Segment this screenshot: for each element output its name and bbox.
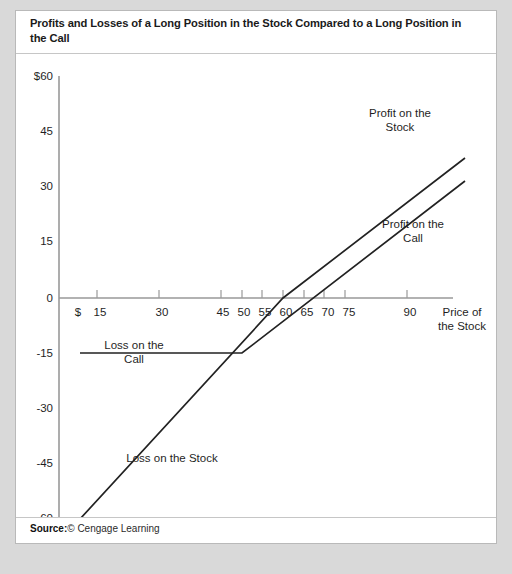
source-label: Source: [30,523,67,534]
x-tick-label-75: 75 [343,306,356,318]
chart-plot-area: $60 45 30 15 0 -15 -30 -45 -60 $ 15 30 4… [16,54,496,518]
x-tick-label-30: 30 [156,306,169,318]
x-tick-label-65: 65 [301,306,314,318]
annotation-loss-call-line1: Loss on the [104,339,163,351]
x-tick-label-45: 45 [217,306,230,318]
chart-svg: $60 45 30 15 0 -15 -30 -45 -60 $ 15 30 4… [16,54,496,518]
x-axis-currency-marker: $ [75,306,82,318]
annotation-profit-stock-line1: Profit on the [369,107,431,119]
x-tick-label-50: 50 [238,306,251,318]
x-tick-label-70: 70 [322,306,335,318]
y-tick-label-n30: -30 [36,402,53,414]
source-value: © Cengage Learning [67,523,159,534]
figure-source-bar: Source:© Cengage Learning [16,517,496,543]
source-line: Source:© Cengage Learning [30,523,160,534]
y-tick-label-15: 15 [40,235,53,247]
screenshot-root: Profits and Losses of a Long Position in… [0,0,512,574]
figure-title-bar: Profits and Losses of a Long Position in… [16,11,496,54]
x-tick-label-90: 90 [404,306,417,318]
annotation-profit-call-line1: Profit on the [382,218,444,230]
y-tick-label-30: 30 [40,180,53,192]
series-line-call [80,181,465,353]
y-tick-label-0: 0 [47,292,53,304]
x-axis-title-line2: the Stock [438,320,486,332]
annotation-profit-stock-line2: Stock [386,121,415,133]
y-tick-label-45: 45 [40,125,53,137]
x-tick-label-15: 15 [94,306,107,318]
annotation-profit-call-line2: Call [403,232,423,244]
series-line-stock [80,158,465,518]
annotation-loss-call-line2: Call [124,353,144,365]
annotation-loss-stock: Loss on the Stock [126,452,218,464]
y-tick-label-n15: -15 [36,347,53,359]
y-tick-label-n45: -45 [36,457,53,469]
figure-card: Profits and Losses of a Long Position in… [15,10,497,544]
y-tick-label-60: $60 [34,70,53,82]
x-axis-title-line1: Price of [443,306,483,318]
page-title: Profits and Losses of a Long Position in… [30,16,480,46]
